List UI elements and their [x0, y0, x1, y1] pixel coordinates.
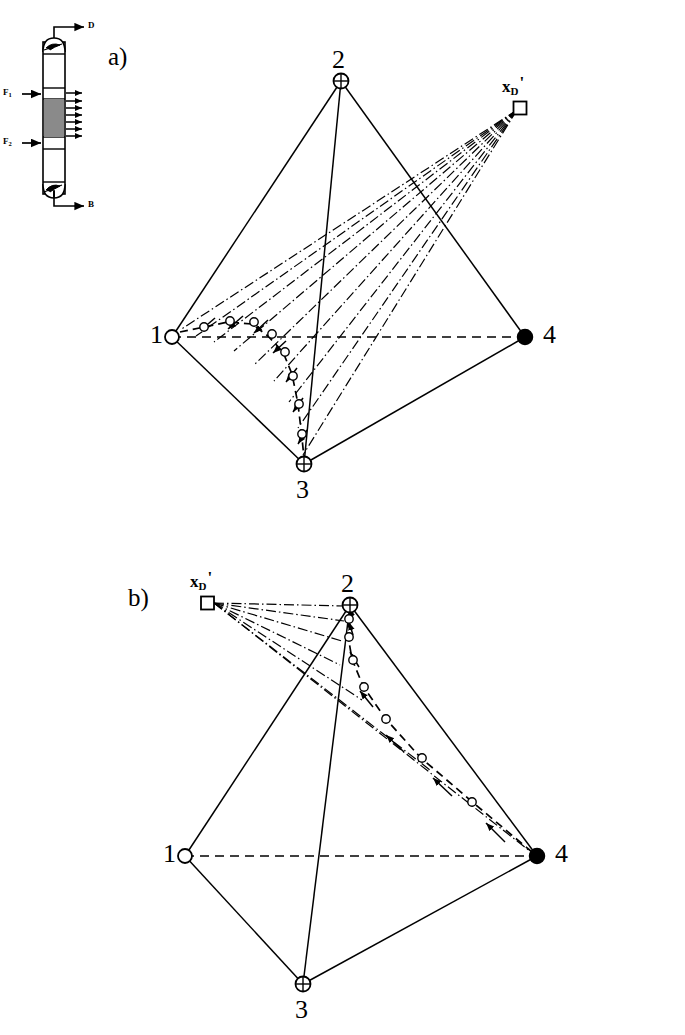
pole-b-symbol: x — [190, 572, 199, 591]
pole-b-subscript: D — [199, 580, 207, 592]
feed-2-subscript: 2 — [9, 140, 12, 147]
vertex-1-marker — [165, 330, 179, 344]
stream-label-feed-1: F1 — [3, 88, 12, 99]
stage-point — [226, 317, 234, 325]
stage-point — [289, 372, 297, 380]
edge-b-1-2 — [185, 605, 350, 856]
stage-point — [295, 400, 303, 408]
tie-line-b-7 — [214, 603, 531, 852]
panel-b-tie-line-fan — [214, 603, 531, 852]
pole-a-prime: ' — [519, 73, 524, 92]
tie-line-3 — [214, 110, 517, 342]
panel-a-label: a) — [108, 44, 127, 69]
vertex-b-label-3: 3 — [295, 997, 308, 1023]
stage-point — [281, 348, 289, 356]
panel-a-tetrahedron — [165, 74, 533, 472]
edge-2-4 — [341, 81, 525, 337]
vertex-b-4-marker — [530, 849, 545, 864]
reactive-packing-section — [44, 99, 64, 137]
edge-b-2-3 — [303, 605, 350, 984]
stage-point — [382, 715, 390, 723]
stage-point — [349, 656, 357, 664]
panel-b-pole-marker — [201, 597, 214, 610]
edge-b-2-4 — [350, 605, 537, 856]
stage-point — [200, 323, 208, 331]
vertex-b-3-marker — [296, 977, 311, 992]
tie-line-1 — [180, 110, 517, 330]
pole-b-prime: ' — [207, 568, 212, 587]
figure-canvas — [0, 0, 685, 1035]
bottoms-line — [54, 198, 74, 206]
vertex-b-label-1: 1 — [163, 841, 176, 867]
stage-point — [298, 430, 306, 438]
vertex-a-label-1: 1 — [150, 322, 163, 348]
vertex-b-2-marker — [343, 598, 358, 613]
feed-1-subscript: 1 — [9, 91, 12, 98]
tie-line-5 — [255, 110, 517, 364]
vertex-a-label-3: 3 — [296, 477, 309, 503]
side-draw-arrows — [66, 93, 82, 136]
vertex-b-label-4: 4 — [555, 841, 568, 867]
tie-line-2 — [196, 110, 517, 336]
panel-b-tetrahedron — [178, 597, 545, 992]
vertex-2-marker — [334, 74, 349, 89]
stage-point — [345, 633, 353, 641]
stream-label-distillate: D — [88, 21, 95, 30]
tie-line-7 — [289, 110, 517, 402]
stage-point — [468, 798, 476, 806]
vertex-a-label-2: 2 — [332, 47, 345, 73]
vertex-a-label-4: 4 — [543, 322, 556, 348]
panel-b-pole-label: xD' — [190, 569, 212, 592]
tie-line-b-3 — [214, 603, 342, 641]
pole-a-subscript: D — [511, 85, 519, 97]
stream-label-bottoms: B — [88, 200, 94, 209]
vertex-4-marker — [518, 330, 533, 345]
panel-a-pole-marker — [514, 102, 527, 115]
stage-point — [418, 754, 426, 762]
panel-a-pole-label: xD' — [502, 74, 524, 97]
figure-root: D B F1 F2 a) b) 1 2 3 4 xD' 1 2 3 4 xD' — [0, 0, 685, 1035]
tie-line-b-4 — [214, 603, 340, 665]
vertex-b-1-marker — [178, 849, 192, 863]
stage-point — [250, 318, 258, 326]
stage-point — [268, 330, 276, 338]
edge-b-1-3 — [185, 856, 303, 984]
column-schematic — [22, 27, 84, 206]
tie-line-8 — [298, 110, 517, 428]
panel-a-tie-line-fan — [180, 110, 517, 455]
panel-b-profile-path — [348, 610, 532, 852]
distillate-line — [54, 27, 74, 38]
edge-2-3 — [304, 81, 341, 464]
stage-point — [360, 683, 368, 691]
stage-point — [345, 615, 353, 623]
pole-a-symbol: x — [502, 77, 511, 96]
panel-b-label: b) — [128, 585, 149, 610]
edge-1-2 — [172, 81, 341, 337]
edge-b-3-4 — [303, 856, 537, 984]
vertex-b-label-2: 2 — [341, 571, 354, 597]
stream-label-feed-2: F2 — [3, 137, 12, 148]
panel-b-stage-points — [345, 615, 476, 806]
vertex-3-marker — [297, 457, 312, 472]
